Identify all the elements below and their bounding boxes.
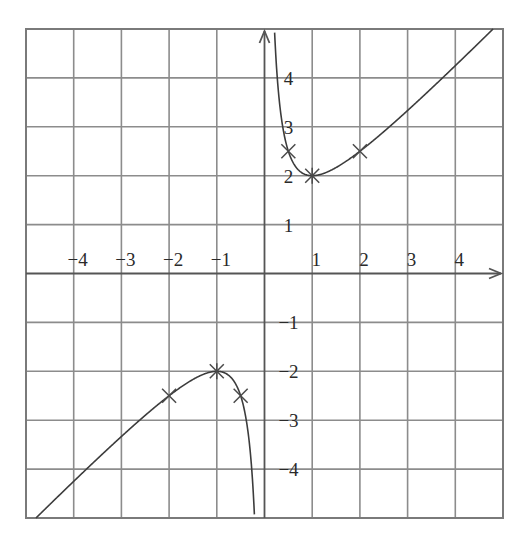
y-tick-label: −4 bbox=[278, 459, 299, 480]
x-tick-label: 3 bbox=[407, 249, 417, 270]
x-tick-label: 4 bbox=[455, 249, 465, 270]
x-tick-label: 2 bbox=[359, 249, 369, 270]
y-tick-label: 1 bbox=[284, 215, 294, 236]
curve-left-branch bbox=[36, 371, 254, 518]
function-graph: −4−3−2−112344321−1−2−3−4 bbox=[0, 0, 529, 549]
x-tick-label: −4 bbox=[68, 249, 89, 270]
y-tick-label: −3 bbox=[278, 410, 298, 431]
cross-marker-icon bbox=[234, 389, 248, 403]
x-tick-label: −3 bbox=[115, 249, 135, 270]
x-tick-label: −2 bbox=[163, 249, 183, 270]
x-tick-label: 1 bbox=[311, 249, 321, 270]
y-tick-label: −1 bbox=[278, 312, 298, 333]
curve-right-branch bbox=[275, 29, 493, 176]
x-tick-label: −1 bbox=[211, 249, 231, 270]
y-tick-label: 4 bbox=[284, 68, 294, 89]
cross-marker-icon bbox=[281, 144, 295, 158]
axes bbox=[26, 31, 501, 518]
y-tick-label: −2 bbox=[278, 361, 298, 382]
y-tick-label: 2 bbox=[284, 166, 294, 187]
y-tick-label: 3 bbox=[284, 117, 294, 138]
